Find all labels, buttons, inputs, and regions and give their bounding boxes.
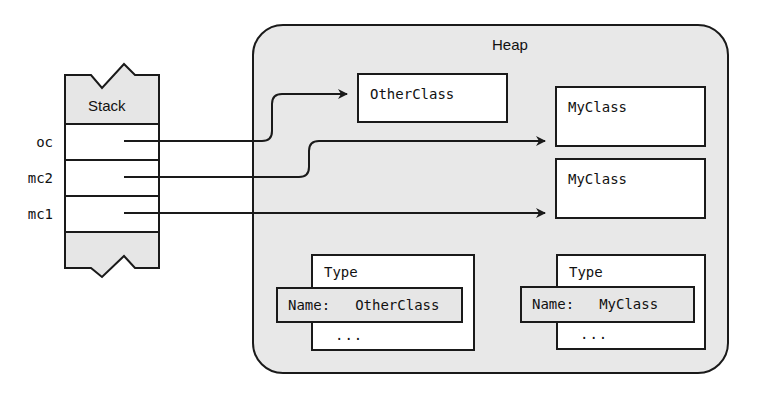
- stack-top-cap: [65, 64, 159, 124]
- type-object-ellipsis: ...: [580, 326, 608, 342]
- heap-title: Heap: [492, 36, 528, 53]
- name-key-label: Name:: [532, 296, 574, 312]
- myclass-instance-label-bottom: MyClass: [568, 171, 627, 187]
- variable-label-oc: oc: [3, 134, 53, 150]
- variable-label-mc2: mc2: [3, 170, 53, 186]
- otherclass-instance-box: OtherClass: [357, 73, 508, 123]
- name-value: OtherClass: [355, 297, 439, 313]
- stack-title: Stack: [88, 97, 126, 114]
- type-name-field-myclass: Name:MyClass: [520, 286, 695, 323]
- type-object-ellipsis: ...: [335, 327, 363, 343]
- name-key-label: Name:: [288, 297, 330, 313]
- myclass-instance-label-top: MyClass: [568, 99, 627, 115]
- name-value: MyClass: [599, 296, 658, 312]
- memory-diagram: Stack oc mc2 mc1 Heap OtherClass MyClass…: [0, 0, 771, 394]
- stack-bottom-cap: [65, 232, 159, 277]
- type-name-field-otherclass: Name:OtherClass: [276, 287, 463, 323]
- myclass-instance-box-bottom: MyClass: [555, 158, 706, 219]
- type-object-title: Type: [569, 264, 603, 280]
- type-object-title: Type: [324, 264, 358, 280]
- otherclass-instance-label: OtherClass: [370, 86, 454, 102]
- variable-label-mc1: mc1: [3, 206, 53, 222]
- myclass-instance-box-top: MyClass: [555, 86, 706, 147]
